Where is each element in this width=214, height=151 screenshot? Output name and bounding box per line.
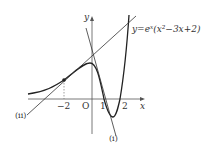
- line-i-label: (i): [109, 134, 118, 143]
- graph-canvas: [0, 0, 214, 151]
- origin-label: O: [82, 101, 89, 111]
- function-graph: y x O −2 1 2 y=eˣ(x²−3x+2) (i) (ii): [0, 0, 214, 151]
- tangent-line-i: [86, 28, 116, 136]
- tick-2: 2: [122, 101, 128, 111]
- x-axis-label: x: [140, 101, 145, 111]
- tangent-point: [62, 78, 66, 82]
- equation-label: y=eˣ(x²−3x+2): [132, 24, 200, 34]
- tick-neg2: −2: [57, 101, 70, 111]
- curve: [28, 15, 129, 117]
- y-axis-arrow-icon: [90, 16, 94, 21]
- line-ii-label: (ii): [15, 111, 26, 120]
- tick-1: 1: [100, 101, 106, 111]
- y-axis-label: y: [84, 12, 89, 22]
